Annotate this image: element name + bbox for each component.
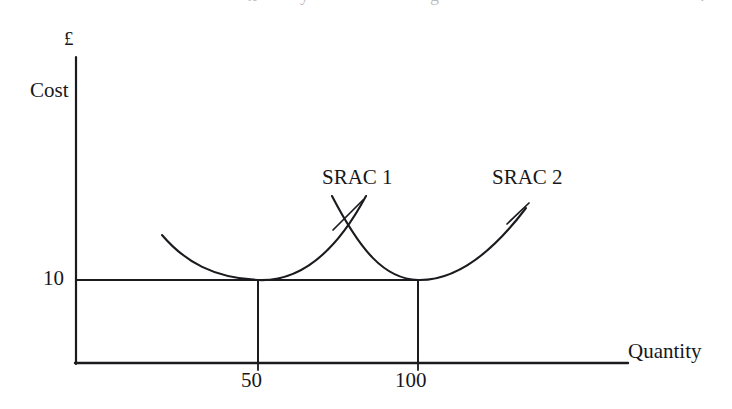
curve-srac-1 xyxy=(162,196,366,280)
curve-srac-2 xyxy=(332,196,526,280)
cost-curves-diagram xyxy=(0,0,732,409)
x-tick-label-100: 100 xyxy=(395,370,427,391)
curve-label-srac-1: SRAC 1 xyxy=(322,167,393,188)
leader-line-srac-2 xyxy=(507,203,529,224)
figure-canvas: x y g . £ Cost 10 50 100 Quantity SRAC 1… xyxy=(0,0,732,409)
x-tick-label-50: 50 xyxy=(241,370,262,391)
curve-label-srac-2: SRAC 2 xyxy=(492,167,563,188)
y-axis-title: Cost xyxy=(30,80,69,101)
x-axis-title: Quantity xyxy=(628,341,702,362)
y-axis-currency-label: £ xyxy=(64,29,74,48)
y-tick-label-10: 10 xyxy=(43,268,64,289)
